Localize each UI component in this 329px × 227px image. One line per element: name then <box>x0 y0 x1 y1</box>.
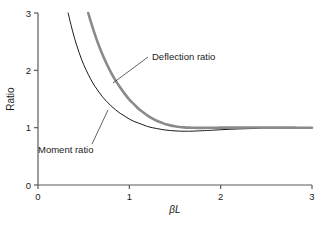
x-tick-label-2: 2 <box>218 191 223 202</box>
series-line-deflection-ratio <box>88 13 312 128</box>
annotation-leader-lines <box>92 57 148 144</box>
y-tick-label-2: 2 <box>26 65 31 76</box>
y-tick-label-1: 1 <box>26 122 31 133</box>
y-tick-label-0: 0 <box>26 180 31 191</box>
x-tick-label-0: 0 <box>35 191 40 202</box>
ratio-vs-beta-l-line-chart: 0123 0123 Deflection ratio Moment ratio … <box>0 0 329 227</box>
series-label-deflection-ratio: Deflection ratio <box>152 51 215 62</box>
series-line-moment-ratio <box>68 13 312 131</box>
y-axis-tick-labels: 0123 <box>26 8 31 191</box>
series-label-moment-ratio: Moment ratio <box>38 144 93 155</box>
data-series-group <box>68 13 312 131</box>
x-axis-tick-labels: 0123 <box>35 191 314 202</box>
x-tick-label-1: 1 <box>127 191 132 202</box>
y-tick-label-3: 3 <box>26 8 31 19</box>
leader-line-deflection-ratio <box>113 57 148 83</box>
leader-line-moment-ratio <box>92 110 108 144</box>
x-axis-title: βL <box>168 204 180 215</box>
x-axis-ticks <box>38 185 312 189</box>
x-tick-label-3: 3 <box>309 191 314 202</box>
axis-lines <box>38 13 312 185</box>
chart-figure: 0123 0123 Deflection ratio Moment ratio … <box>0 0 329 227</box>
y-axis-title: Ratio <box>5 87 16 111</box>
